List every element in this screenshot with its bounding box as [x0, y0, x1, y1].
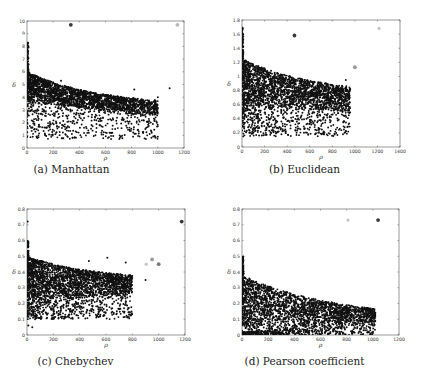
- y-tick-label: 1.2: [233, 60, 240, 65]
- chart-panel-euclidean: 020040060080010001200140000.20.40.60.811…: [211, 0, 422, 195]
- cluster-center-point: [378, 27, 381, 30]
- y-tick-label: 1: [22, 133, 25, 138]
- x-tick-label: 0: [26, 337, 29, 342]
- x-tick-label: 400: [290, 337, 299, 342]
- cluster-center-point: [69, 23, 73, 27]
- y-tick-label: 0.2: [233, 301, 240, 306]
- chart-panel-manhattan: 020040060080010001200012345678910ρδ (a) …: [0, 0, 211, 195]
- y-tick-label: 0.5: [233, 254, 240, 259]
- y-tick-label: 0.2: [233, 130, 240, 135]
- x-tick-label: 1000: [349, 149, 361, 154]
- x-axis-label: ρ: [318, 341, 323, 349]
- y-tick-label: 6: [22, 69, 25, 74]
- y-tick-label: 0.4: [233, 116, 240, 121]
- x-tick-label: 0: [26, 150, 29, 155]
- cluster-center-point: [157, 262, 161, 266]
- caption-pearson: (d) Pearson coefficient: [199, 355, 410, 367]
- y-tick-label: 0.5: [18, 254, 25, 259]
- y-tick-label: 0.2: [18, 301, 25, 306]
- x-axis-label: ρ: [103, 154, 108, 162]
- y-tick-label: 9: [22, 31, 25, 36]
- y-tick-label: 3: [22, 108, 25, 113]
- y-tick-label: 0: [237, 145, 240, 150]
- y-tick-label: 0.1: [18, 317, 25, 322]
- y-axis-label: δ: [12, 268, 16, 275]
- x-tick-label: 0: [241, 149, 244, 154]
- y-tick-label: 0.3: [18, 285, 25, 290]
- y-axis-label: δ: [227, 268, 231, 275]
- y-tick-label: 0.1: [233, 317, 240, 322]
- cluster-center-point: [353, 65, 357, 69]
- y-tick-label: 8: [22, 44, 25, 49]
- cluster-center-point: [346, 218, 349, 221]
- chart-panel-pearson: 02004006008001000120000.10.20.30.40.50.6…: [211, 195, 422, 390]
- x-tick-label: 1200: [393, 337, 405, 342]
- x-tick-label: 200: [264, 337, 273, 342]
- y-tick-label: 0.6: [233, 102, 240, 107]
- y-tick-label: 7: [22, 57, 25, 62]
- cluster-center-point: [293, 34, 297, 38]
- x-tick-label: 1200: [178, 150, 190, 155]
- x-tick-label: 200: [49, 337, 58, 342]
- x-tick-label: 800: [328, 149, 337, 154]
- x-tick-label: 800: [128, 337, 137, 342]
- y-tick-label: 0.4: [18, 270, 25, 275]
- y-tick-label: 2: [22, 120, 25, 125]
- cluster-center-point: [180, 220, 184, 224]
- x-tick-label: 1200: [179, 337, 191, 342]
- x-tick-label: 400: [75, 337, 84, 342]
- y-tick-label: 0: [22, 146, 25, 151]
- cluster-center-point: [176, 23, 180, 27]
- x-tick-label: 400: [283, 149, 292, 154]
- chart-panel-chebychev: 02004006008001000120000.10.20.30.40.50.6…: [0, 195, 211, 390]
- y-tick-label: 0: [22, 333, 25, 338]
- x-axis-label: ρ: [103, 341, 108, 349]
- x-tick-label: 800: [127, 150, 136, 155]
- caption-euclidean: (b) Euclidean: [199, 163, 410, 175]
- y-tick-label: 0.6: [233, 238, 240, 243]
- y-tick-label: 1: [237, 74, 240, 79]
- y-tick-label: 1.4: [233, 46, 240, 51]
- y-tick-label: 0.7: [18, 222, 25, 227]
- y-tick-label: 10: [19, 19, 25, 24]
- x-tick-label: 1400: [394, 149, 406, 154]
- y-tick-label: 1.6: [233, 32, 240, 37]
- x-tick-label: 600: [305, 149, 314, 154]
- y-tick-label: 0.3: [233, 285, 240, 290]
- y-tick-label: 1.8: [233, 18, 240, 23]
- y-axis-label: δ: [12, 81, 16, 88]
- y-tick-label: 0.8: [233, 207, 240, 212]
- y-tick-label: 5: [22, 82, 25, 87]
- x-tick-label: 0: [241, 337, 244, 342]
- cluster-center-point: [376, 218, 380, 222]
- cluster-center-point: [150, 258, 154, 262]
- x-axis-label: ρ: [318, 153, 323, 161]
- x-tick-label: 1200: [372, 149, 384, 154]
- y-tick-label: 0.8: [233, 88, 240, 93]
- x-tick-label: 400: [75, 150, 84, 155]
- y-tick-label: 0: [237, 333, 240, 338]
- y-tick-label: 0.7: [233, 222, 240, 227]
- caption-chebychev: (c) Chebychev: [0, 355, 181, 367]
- caption-manhattan: (a) Manhattan: [0, 163, 177, 175]
- y-tick-label: 0.6: [18, 238, 25, 243]
- x-tick-label: 200: [260, 149, 269, 154]
- x-tick-label: 1000: [152, 150, 164, 155]
- x-tick-label: 200: [49, 150, 58, 155]
- y-axis-label: δ: [227, 80, 231, 87]
- x-tick-label: 1000: [153, 337, 165, 342]
- cluster-center-point: [145, 263, 148, 266]
- y-tick-label: 4: [22, 95, 25, 100]
- y-tick-label: 0.8: [18, 207, 25, 212]
- y-tick-label: 0.4: [233, 270, 240, 275]
- x-tick-label: 1000: [367, 337, 379, 342]
- x-tick-label: 800: [342, 337, 351, 342]
